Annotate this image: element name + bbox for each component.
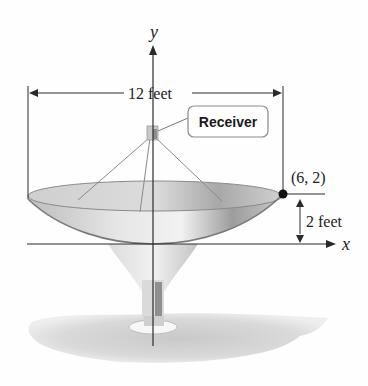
point-label: (6, 2) (291, 169, 326, 187)
arrow-up-icon (296, 199, 304, 207)
width-label: 12 feet (128, 85, 173, 102)
y-axis-label: y (148, 22, 158, 42)
dish (28, 181, 283, 244)
diagram-canvas: y x 12 feet Receiver (6, 2) (0, 0, 368, 386)
receiver-label: Receiver (199, 114, 258, 130)
depth-label: 2 feet (306, 213, 343, 230)
point-marker (279, 190, 288, 199)
x-axis-label: x (341, 234, 350, 254)
ground-shadow (28, 313, 328, 363)
arrow-right-icon (273, 89, 282, 97)
arrow-down-icon (296, 235, 304, 243)
arrow-left-icon (29, 89, 38, 97)
parabolic-dish-diagram: y x 12 feet Receiver (6, 2) (0, 0, 368, 386)
